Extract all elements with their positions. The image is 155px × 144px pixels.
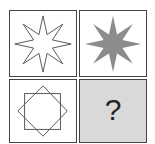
- cell-star-filled: [79, 10, 147, 77]
- eight-point-star-outline-icon: [10, 11, 76, 76]
- cell-squares-outline: [9, 79, 77, 143]
- cell-star-outline: [9, 10, 77, 77]
- cell-answer-unknown: ?: [79, 79, 147, 143]
- question-mark: ?: [80, 95, 146, 125]
- overlapping-squares-icon: [10, 80, 76, 142]
- eight-point-star-filled-icon: [80, 11, 146, 76]
